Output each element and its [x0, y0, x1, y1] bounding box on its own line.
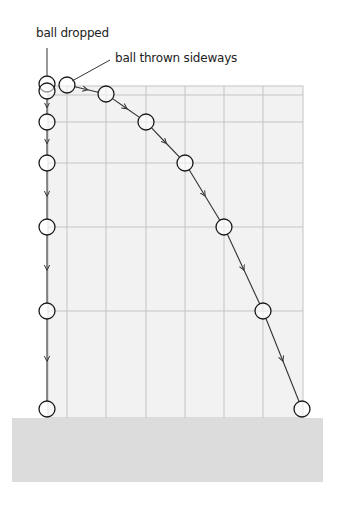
grid-panel: [48, 86, 303, 418]
label-leader-lines: [47, 48, 110, 81]
thrown-ball: [216, 219, 232, 235]
dropped-ball: [39, 401, 55, 417]
thrown-ball: [59, 77, 75, 93]
projectile-diagram: ball dropped ball thrown sideways: [0, 0, 337, 506]
ground-surface: [12, 418, 323, 482]
label-ball-dropped: ball dropped: [36, 26, 109, 40]
dropped-ball: [39, 114, 55, 130]
background-grid: [48, 86, 303, 418]
thrown-ball: [98, 86, 114, 102]
dropped-ball: [39, 219, 55, 235]
thrown-ball: [294, 401, 310, 417]
dropped-ball: [39, 83, 55, 99]
label-ball-thrown: ball thrown sideways: [115, 51, 237, 65]
diagram-canvas: [0, 0, 337, 506]
ground: [12, 418, 323, 482]
thrown-ball: [138, 114, 154, 130]
dropped-ball: [39, 303, 55, 319]
thrown-ball: [255, 303, 271, 319]
thrown-leader-line: [72, 60, 110, 81]
thrown-ball: [177, 155, 193, 171]
dropped-ball: [39, 155, 55, 171]
